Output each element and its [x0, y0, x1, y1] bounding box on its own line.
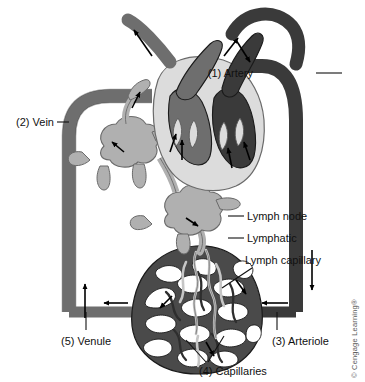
- label-arteriole: (3) Arteriole: [272, 335, 329, 347]
- label-artery: (1) Artery: [208, 67, 254, 79]
- copyright-credit: © Cengage Learning®: [350, 299, 359, 378]
- label-lymph-capillary: Lymph capillary: [245, 254, 322, 266]
- label-lymph-node: Lymph node: [247, 210, 307, 222]
- label-capillaries: (4) Capillaries: [199, 365, 267, 377]
- label-vein: (2) Vein: [16, 116, 54, 128]
- label-lymphatic: Lymphatic: [247, 232, 297, 244]
- label-venule: (5) Venule: [61, 335, 111, 347]
- diagram-figure: (1) Artery (2) Vein Lymph node Lymphatic…: [0, 0, 365, 382]
- capillary-bed: [132, 246, 263, 374]
- diagram-canvas: (1) Artery (2) Vein Lymph node Lymphatic…: [0, 0, 365, 382]
